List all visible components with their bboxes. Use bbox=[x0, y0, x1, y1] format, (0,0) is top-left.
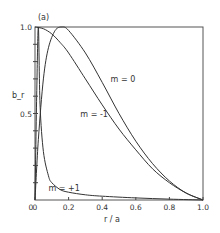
x-tick-label: 0.8 bbox=[163, 203, 175, 212]
x-tick-label: 0.4 bbox=[96, 203, 108, 212]
x-tick-label: 0.2 bbox=[63, 203, 75, 212]
panel-label: (a) bbox=[38, 13, 49, 22]
series-annotation: m = 0 bbox=[111, 75, 136, 84]
curve-m-minus1 bbox=[35, 27, 203, 200]
x-tick-label: 1.0 bbox=[197, 203, 209, 212]
series-annotation: m = -1 bbox=[80, 110, 108, 119]
origin-label: 0 bbox=[29, 203, 34, 212]
y-tick-label: 0.5 bbox=[20, 110, 32, 119]
line-chart: 00.20.40.60.81.0 0.51.00 m = 0m = -1m = … bbox=[0, 0, 220, 233]
x-axis-label: r / a bbox=[104, 215, 120, 224]
series-curves bbox=[35, 27, 203, 200]
series-annotation: m = +1 bbox=[48, 184, 79, 193]
x-tick-label: 0.6 bbox=[130, 203, 142, 212]
y-tick-label: 1.0 bbox=[20, 23, 32, 32]
series-labels: m = 0m = -1m = +1 bbox=[48, 75, 135, 193]
y-axis-label: b_r bbox=[12, 91, 25, 100]
